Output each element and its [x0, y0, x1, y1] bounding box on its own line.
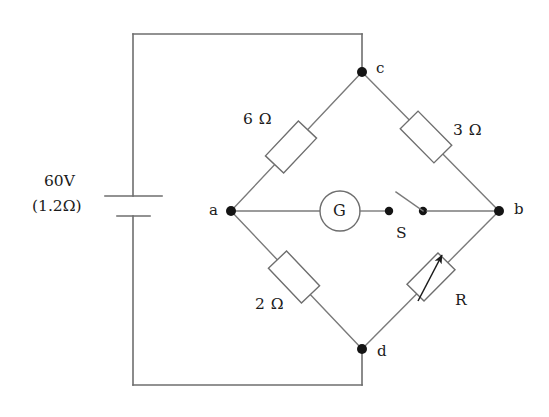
node-dot-d [357, 344, 367, 354]
switch-lever[interactable] [396, 192, 423, 211]
node-dot-b [494, 206, 504, 216]
switch-label: S [396, 226, 407, 242]
resistor-6ohm-label: 6 Ω [243, 112, 272, 128]
circuit-schematic-svg [0, 0, 549, 417]
node-dot-a [226, 206, 236, 216]
source-internal-resistance-label: (1.2Ω) [32, 199, 82, 215]
node-dot-c [357, 67, 367, 77]
resistor-2ohm-label: 2 Ω [255, 297, 284, 313]
battery-symbol [105, 196, 162, 216]
source-voltage-label: 60V [44, 174, 75, 190]
switch-terminal-left[interactable] [385, 207, 393, 215]
resistor-variable-R-label: R [455, 293, 467, 309]
node-label-d: d [377, 344, 387, 359]
node-label-a: a [209, 203, 218, 218]
bridge-branch [231, 191, 499, 231]
node-label-c: c [376, 61, 384, 76]
galvanometer-label: G [333, 203, 346, 219]
resistor-3ohm-label: 3 Ω [453, 123, 482, 139]
node-label-b: b [514, 202, 524, 217]
resistor-variable-R [407, 253, 455, 301]
circuit-diagram-canvas: 60V (1.2Ω) 6 Ω 3 Ω 2 Ω R G S c a b d [0, 0, 549, 417]
